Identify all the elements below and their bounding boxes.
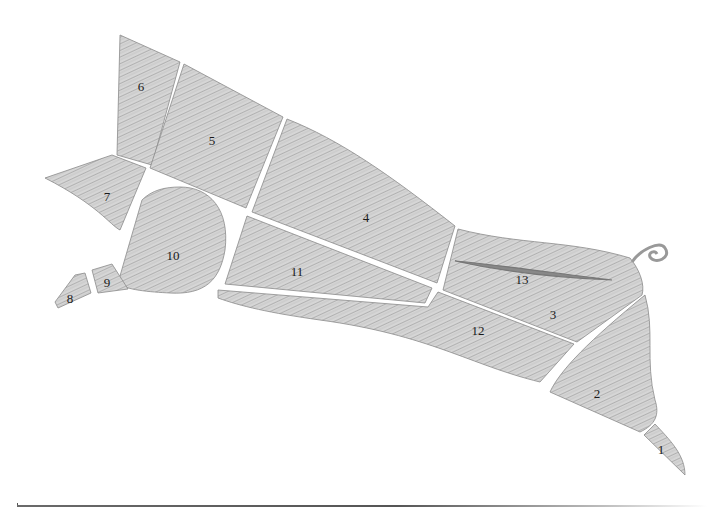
cut-label-4: 4	[363, 211, 370, 224]
cut-1-shape	[644, 424, 685, 475]
cut-label-2: 2	[594, 387, 601, 400]
cut-label-1: 1	[658, 443, 665, 456]
cut-label-10: 10	[167, 249, 180, 262]
cut-label-6: 6	[138, 80, 145, 93]
cut-label-12: 12	[472, 324, 485, 337]
cut-label-8: 8	[67, 292, 74, 305]
cut-label-3: 3	[550, 308, 557, 321]
cut-label-5: 5	[209, 134, 216, 147]
cut-label-11: 11	[291, 265, 304, 278]
cut-label-13: 13	[516, 273, 529, 286]
cut-label-9: 9	[104, 276, 111, 289]
cut-7-shape	[45, 155, 146, 230]
cut-label-7: 7	[104, 190, 111, 203]
cut-10-shape	[118, 187, 226, 293]
pork-cuts-diagram	[0, 0, 720, 507]
tail-shape	[632, 245, 667, 262]
